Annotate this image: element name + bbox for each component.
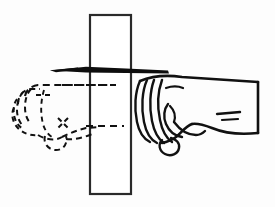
striking-fist (135, 76, 258, 155)
forearm-tendon-mark-lower (222, 119, 238, 120)
forearm-tendon-mark-upper (217, 112, 240, 114)
phantom-finger-crease (41, 90, 54, 138)
motion-arrow (50, 67, 169, 74)
punch-through-board-illustration (0, 0, 275, 207)
knuckle-edge-third (150, 80, 164, 143)
index-joint-tick (166, 87, 183, 89)
hand-top-contour (140, 76, 258, 82)
illustration-canvas (0, 0, 275, 207)
wooden-board (90, 15, 131, 194)
phantom-knuckle-2 (17, 92, 23, 125)
board-face (90, 15, 131, 194)
thumb-inner-fold (170, 106, 175, 122)
